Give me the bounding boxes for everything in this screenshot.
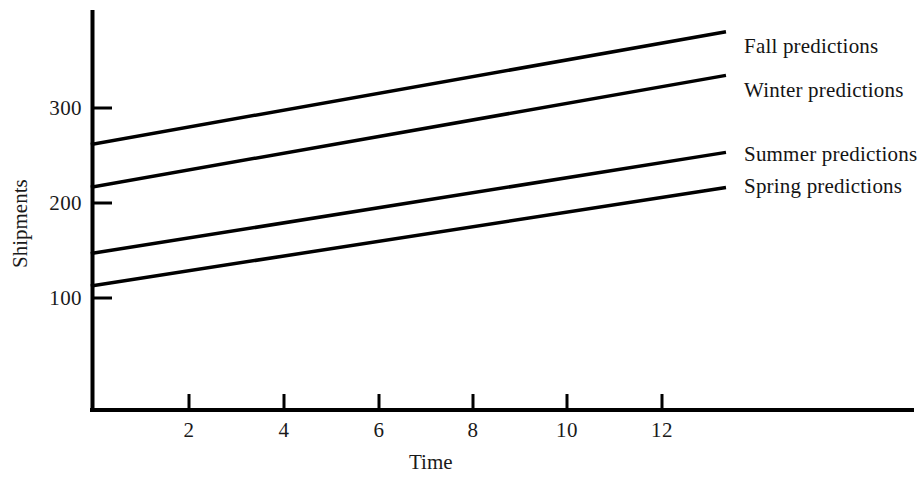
x-tick-label-2: 2 [184, 418, 195, 443]
y-tick-label-100: 100 [38, 286, 82, 311]
series-label-winter: Winter predictions [744, 78, 904, 103]
x-tick-label-10: 10 [556, 418, 578, 443]
series-line-winter [93, 76, 725, 187]
x-tick-label-8: 8 [468, 418, 479, 443]
series-label-fall: Fall predictions [744, 34, 878, 59]
y-axis-title: Shipments [8, 179, 33, 268]
series-label-summer: Summer predictions [744, 142, 917, 167]
y-tick-label-200: 200 [38, 191, 82, 216]
series-label-spring: Spring predictions [744, 174, 902, 199]
y-tick-label-300: 300 [38, 96, 82, 121]
x-axis-title: Time [409, 450, 453, 475]
x-tick-label-6: 6 [374, 418, 385, 443]
x-tick-label-4: 4 [279, 418, 290, 443]
series-line-fall [93, 32, 725, 144]
x-tick-label-12: 12 [651, 418, 673, 443]
